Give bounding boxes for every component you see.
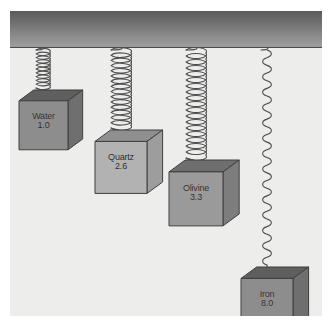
cube-label-quartz: Quartz2.6	[95, 153, 147, 172]
spring-wrap-water	[32, 47, 54, 95]
spring-wrap-olivine	[182, 47, 210, 165]
material-density: 1.0	[19, 121, 68, 130]
ceiling-bar	[10, 11, 322, 48]
cube-label-water: Water1.0	[19, 112, 68, 131]
spring-wrap-iron	[257, 47, 277, 272]
spring-olivine	[182, 47, 210, 161]
material-density: 8.0	[241, 299, 293, 308]
spring-quartz	[107, 47, 135, 131]
spring-wrap-quartz	[107, 47, 135, 135]
material-density: 2.6	[95, 162, 147, 171]
spring-water	[32, 47, 54, 91]
diagram-canvas: Water1.0Quartz2.6Olivine3.3Iron8.0	[0, 0, 333, 331]
scene-area: Water1.0Quartz2.6Olivine3.3Iron8.0	[10, 11, 322, 316]
spring-iron	[257, 47, 277, 268]
cube-wrap-quartz: Quartz2.6	[94, 129, 164, 194]
cube-label-olivine: Olivine3.3	[169, 184, 223, 203]
cube-wrap-olivine: Olivine3.3	[168, 159, 240, 227]
cube-label-iron: Iron8.0	[241, 290, 293, 309]
material-density: 3.3	[169, 193, 223, 202]
cube-wrap-water: Water1.0	[18, 89, 84, 151]
cube-wrap-iron: Iron8.0	[240, 266, 310, 316]
